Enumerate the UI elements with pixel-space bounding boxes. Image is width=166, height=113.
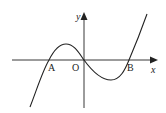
y-axis-arrow-icon (81, 12, 88, 20)
graph-canvas: A O B x y (0, 0, 166, 113)
cubic-graph-diagram: A O B x y (0, 0, 166, 113)
x-axis-label: x (150, 64, 156, 75)
origin-label: O (72, 62, 79, 73)
point-b-label: B (127, 62, 134, 73)
cubic-curve (30, 14, 147, 107)
point-a-label: A (48, 62, 56, 73)
x-axis-arrow-icon (150, 57, 158, 64)
y-axis-label: y (75, 11, 81, 22)
